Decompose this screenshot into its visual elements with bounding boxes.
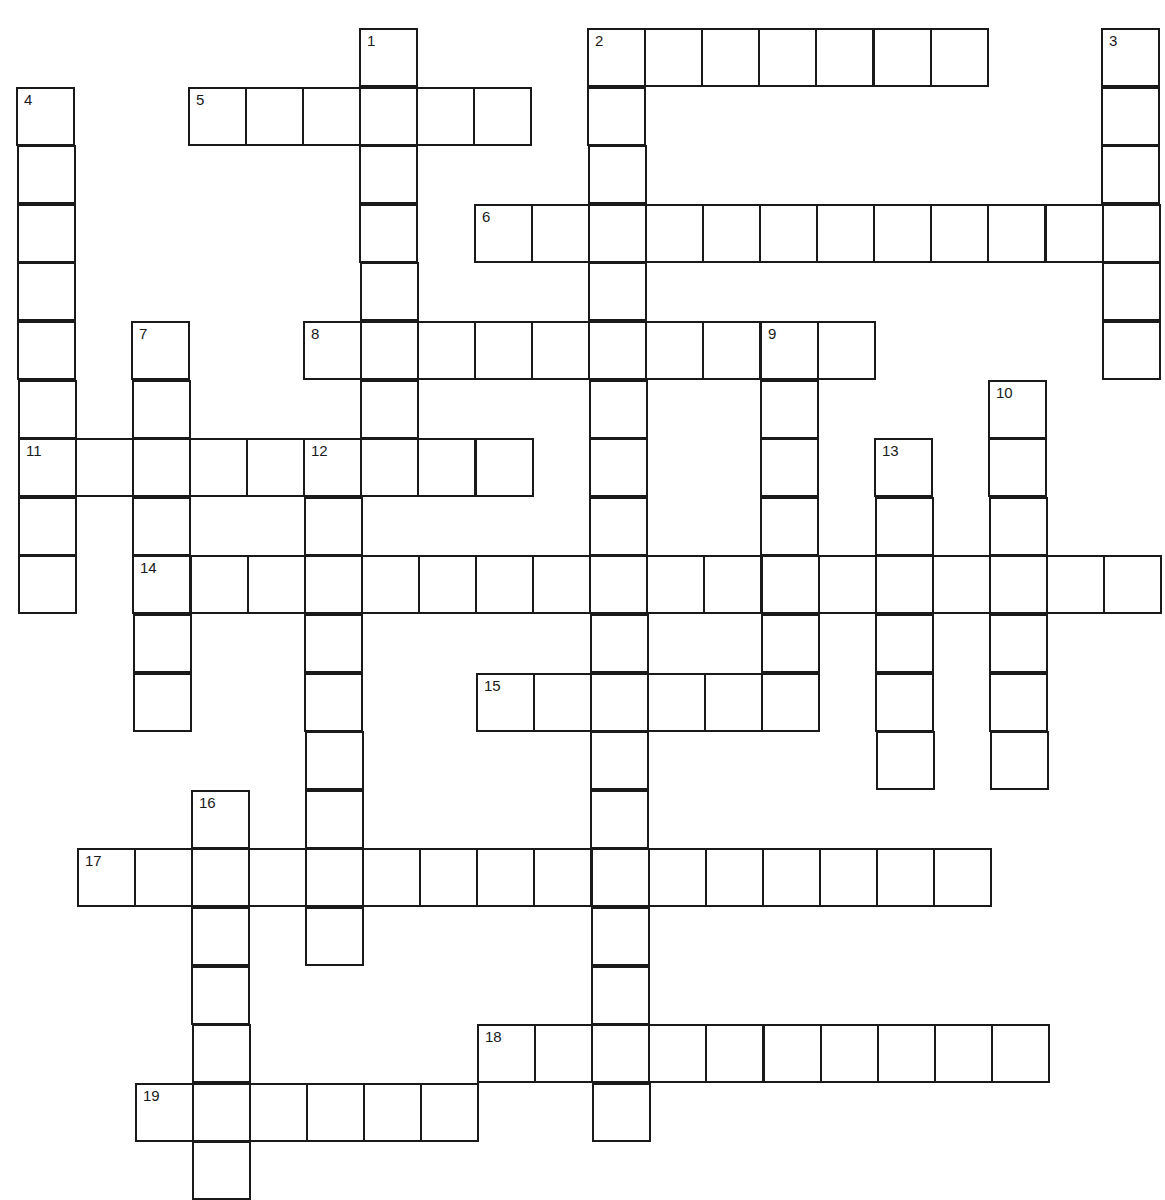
- crossword-cell[interactable]: [1102, 321, 1161, 380]
- crossword-cell[interactable]: [305, 731, 364, 790]
- crossword-cell[interactable]: [360, 321, 419, 380]
- crossword-cell[interactable]: [531, 321, 590, 380]
- crossword-cell[interactable]: [591, 1024, 650, 1083]
- crossword-cell[interactable]: [702, 204, 761, 263]
- crossword-cell[interactable]: [304, 497, 363, 556]
- crossword-cell[interactable]: [875, 497, 934, 556]
- crossword-cell[interactable]: [246, 438, 305, 497]
- crossword-cell[interactable]: [359, 204, 418, 263]
- crossword-cell[interactable]: [132, 380, 191, 439]
- crossword-cell[interactable]: [133, 673, 192, 732]
- crossword-cell[interactable]: [930, 204, 989, 263]
- crossword-cell[interactable]: [531, 204, 590, 263]
- crossword-cell[interactable]: [816, 204, 875, 263]
- crossword-cell[interactable]: [989, 555, 1048, 614]
- crossword-cell[interactable]: [760, 438, 819, 497]
- crossword-cell[interactable]: [191, 966, 250, 1025]
- crossword-cell[interactable]: [591, 907, 650, 966]
- crossword-cell[interactable]: [705, 1024, 764, 1083]
- crossword-cell[interactable]: 12: [303, 438, 362, 497]
- crossword-cell[interactable]: [473, 87, 532, 146]
- crossword-cell[interactable]: [591, 966, 650, 1025]
- crossword-cell[interactable]: [304, 555, 363, 614]
- crossword-cell[interactable]: [247, 555, 306, 614]
- crossword-cell[interactable]: [589, 380, 648, 439]
- crossword-cell[interactable]: [18, 555, 77, 614]
- crossword-cell[interactable]: [305, 848, 364, 907]
- crossword-cell[interactable]: 16: [191, 790, 250, 849]
- crossword-cell[interactable]: [245, 87, 304, 146]
- crossword-cell[interactable]: [588, 145, 647, 204]
- crossword-cell[interactable]: [587, 87, 646, 146]
- crossword-cell[interactable]: [304, 614, 363, 673]
- crossword-cell[interactable]: [703, 555, 762, 614]
- crossword-cell[interactable]: [990, 731, 1049, 790]
- crossword-cell[interactable]: [818, 555, 877, 614]
- crossword-cell[interactable]: [132, 497, 191, 556]
- crossword-cell[interactable]: 19: [135, 1083, 194, 1142]
- crossword-cell[interactable]: [589, 497, 648, 556]
- crossword-cell[interactable]: [1103, 555, 1162, 614]
- crossword-cell[interactable]: [819, 848, 878, 907]
- crossword-cell[interactable]: [760, 380, 819, 439]
- crossword-cell[interactable]: 8: [303, 321, 362, 380]
- crossword-cell[interactable]: [759, 204, 818, 263]
- crossword-cell[interactable]: 11: [18, 438, 77, 497]
- crossword-cell[interactable]: 10: [988, 380, 1047, 439]
- crossword-cell[interactable]: [644, 28, 703, 87]
- crossword-cell[interactable]: [648, 1024, 707, 1083]
- crossword-cell[interactable]: [189, 438, 248, 497]
- crossword-cell[interactable]: 15: [476, 673, 535, 732]
- crossword-cell[interactable]: 4: [16, 87, 75, 146]
- crossword-cell[interactable]: 3: [1101, 28, 1160, 87]
- crossword-cell[interactable]: [758, 28, 817, 87]
- crossword-cell[interactable]: [249, 1083, 308, 1142]
- crossword-cell[interactable]: [1046, 555, 1105, 614]
- crossword-cell[interactable]: [934, 1024, 993, 1083]
- crossword-cell[interactable]: [305, 907, 364, 966]
- crossword-cell[interactable]: [873, 204, 932, 263]
- crossword-cell[interactable]: [305, 790, 364, 849]
- crossword-cell[interactable]: [646, 555, 705, 614]
- crossword-cell[interactable]: [420, 1083, 479, 1142]
- crossword-cell[interactable]: [589, 555, 648, 614]
- crossword-cell[interactable]: [361, 555, 420, 614]
- crossword-cell[interactable]: [875, 673, 934, 732]
- crossword-cell[interactable]: [192, 1141, 251, 1200]
- crossword-cell[interactable]: [17, 145, 76, 204]
- crossword-cell[interactable]: 5: [188, 87, 247, 146]
- crossword-cell[interactable]: [75, 438, 134, 497]
- crossword-cell[interactable]: [876, 848, 935, 907]
- crossword-cell[interactable]: [533, 673, 592, 732]
- crossword-cell[interactable]: [761, 555, 820, 614]
- crossword-cell[interactable]: [930, 28, 989, 87]
- crossword-cell[interactable]: [17, 204, 76, 263]
- crossword-cell[interactable]: [877, 1024, 936, 1083]
- crossword-cell[interactable]: [760, 497, 819, 556]
- crossword-cell[interactable]: [418, 555, 477, 614]
- crossword-cell[interactable]: [416, 87, 475, 146]
- crossword-cell[interactable]: [702, 321, 761, 380]
- crossword-cell[interactable]: [647, 673, 706, 732]
- crossword-cell[interactable]: [17, 262, 76, 321]
- crossword-cell[interactable]: [363, 1083, 422, 1142]
- crossword-cell[interactable]: 2: [587, 28, 646, 87]
- crossword-cell[interactable]: [873, 28, 932, 87]
- crossword-cell[interactable]: [192, 1024, 251, 1083]
- crossword-cell[interactable]: [475, 555, 534, 614]
- crossword-cell[interactable]: [875, 555, 934, 614]
- crossword-cell[interactable]: 13: [874, 438, 933, 497]
- crossword-cell[interactable]: 1: [359, 28, 418, 87]
- crossword-cell[interactable]: [989, 614, 1048, 673]
- crossword-cell[interactable]: [1102, 262, 1161, 321]
- crossword-cell[interactable]: [591, 848, 650, 907]
- crossword-cell[interactable]: [762, 848, 821, 907]
- crossword-cell[interactable]: [645, 321, 704, 380]
- crossword-cell[interactable]: [588, 321, 647, 380]
- crossword-cell[interactable]: [133, 614, 192, 673]
- crossword-cell[interactable]: 18: [477, 1024, 536, 1083]
- crossword-cell[interactable]: [191, 907, 250, 966]
- crossword-cell[interactable]: [589, 438, 648, 497]
- crossword-cell[interactable]: 17: [77, 848, 136, 907]
- crossword-cell[interactable]: [592, 1083, 651, 1142]
